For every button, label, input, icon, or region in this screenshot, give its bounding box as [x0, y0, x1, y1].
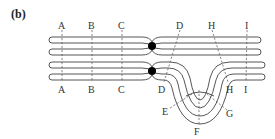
centromere-bottom: [148, 67, 156, 75]
centromere-top: [148, 42, 156, 50]
label-f: F: [194, 126, 200, 137]
label-top-a: A: [58, 20, 66, 31]
bottom-labels: A B C D H I: [58, 84, 247, 95]
loop-labels: E F G: [162, 106, 233, 137]
label-e: E: [162, 106, 168, 117]
label-g: G: [226, 108, 233, 119]
label-top-b: B: [88, 20, 95, 31]
top-labels: A B C D H I: [58, 20, 248, 31]
marker-line-h: [212, 30, 228, 82]
label-top-c: C: [118, 20, 125, 31]
label-top-h: H: [208, 20, 215, 31]
label-bottom-h: H: [226, 84, 233, 95]
label-bottom-a: A: [58, 84, 66, 95]
label-bottom-c: C: [118, 84, 125, 95]
top-homolog: [49, 37, 261, 55]
inner-arc: [186, 92, 214, 96]
chromosome-inversion-diagram: A B C D H I A B C D H I E F G: [0, 0, 275, 139]
label-bottom-b: B: [88, 84, 95, 95]
label-bottom-i: I: [244, 84, 247, 95]
label-bottom-d: D: [158, 84, 165, 95]
label-top-i: I: [245, 20, 248, 31]
label-top-d: D: [176, 20, 183, 31]
